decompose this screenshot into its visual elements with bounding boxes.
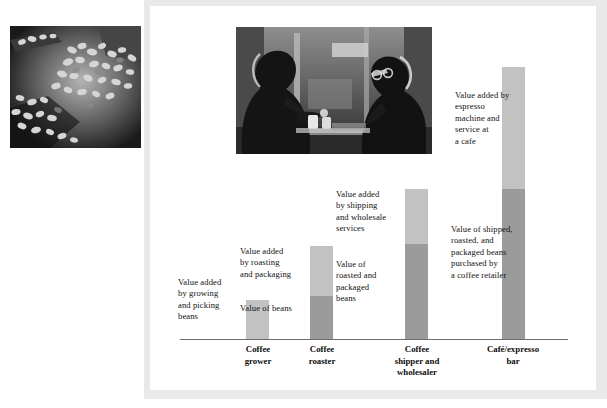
- xlabel-coffee-roaster: Coffee roaster: [281, 344, 363, 367]
- bar-coffee-shipper-wholesaler[interactable]: [405, 189, 428, 339]
- annotation-grower-value-added: Value addedby growingand pickingbeans: [178, 277, 244, 323]
- xlabel-line3: wholesaler: [397, 367, 437, 377]
- xlabel-line2: roaster: [309, 356, 336, 366]
- annotation-roaster-value-added: Value addedby roastingand packaging: [240, 246, 308, 280]
- xlabel-cafe-expresso-bar: Café/expresso bar: [463, 344, 563, 367]
- annotation-cafe-value-of-shipped: Value of shipped,roasted, andpackaged be…: [451, 224, 531, 281]
- xlabel-line1: Coffee: [405, 344, 429, 354]
- annotation-cafe-value-added: Value added byespressomachine andservice…: [455, 90, 531, 147]
- bar-coffee-roaster[interactable]: [310, 246, 333, 339]
- annotation-shipper-value-added: Value addedby shippingand wholesaleservi…: [336, 189, 406, 235]
- xlabel-coffee-shipper-wholesaler: Coffee shipper and wholesaler: [372, 344, 462, 379]
- bar-segment-carried-value: [405, 244, 428, 339]
- xlabel-line1: Coffee: [310, 344, 334, 354]
- bar-segment-carried-value: [310, 296, 333, 339]
- xlabel-line2: shipper and: [395, 356, 440, 366]
- xlabel-line2: grower: [245, 356, 272, 366]
- annotation-shipper-value-of-roasted: Value ofroasted andpackagedbeans: [336, 259, 404, 305]
- coffee-beans-photo: [10, 26, 141, 148]
- figure-root: Value addedby growingand pickingbeans Co…: [0, 0, 607, 408]
- x-axis-line: [180, 339, 568, 340]
- value-added-bar-chart: Value addedby growingand pickingbeans Co…: [150, 6, 596, 390]
- xlabel-line2: bar: [506, 356, 519, 366]
- annotation-roaster-value-of-beans: Value of beans: [240, 303, 310, 314]
- bar-segment-value-added: [310, 246, 333, 296]
- xlabel-line1: Coffee: [246, 344, 270, 354]
- bar-segment-value-added: [405, 189, 428, 244]
- xlabel-line1: Café/expresso: [487, 344, 539, 354]
